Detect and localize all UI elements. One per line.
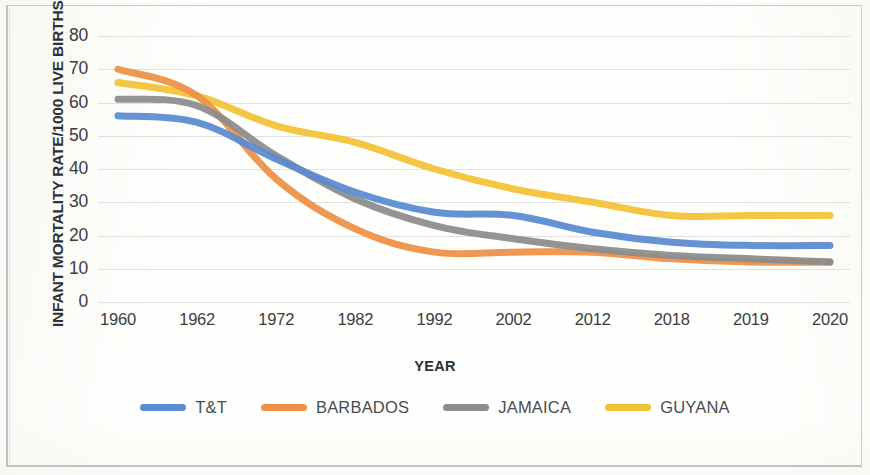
data-series-group [98,36,850,302]
x-axis-tick-label: 1972 [258,310,294,329]
x-axis-tick-label: 1962 [179,310,215,329]
y-axis-tick-label: 0 [42,291,88,312]
legend-swatch-guyana [605,404,651,411]
legend-item-guyana[interactable]: GUYANA [605,398,730,417]
x-axis-title: YEAR [0,358,870,374]
x-axis-tick-label: 1960 [100,310,136,329]
gridline [98,302,850,303]
legend-label: BARBADOS [316,398,409,417]
x-axis-tick-label: 2018 [654,310,690,329]
legend-label: JAMAICA [498,398,571,417]
y-axis-tick-label: 40 [42,158,88,179]
legend-item-tt[interactable]: T&T [140,398,227,417]
x-axis-tick-label: 2012 [575,310,611,329]
series-line-guyana [118,83,830,217]
legend-swatch-barbados [261,404,307,411]
legend-swatch-jamaica [443,404,489,411]
y-axis-tick-label: 20 [42,225,88,246]
x-axis-tick-label: 2019 [733,310,769,329]
legend-item-barbados[interactable]: BARBADOS [261,398,409,417]
legend-item-jamaica[interactable]: JAMAICA [443,398,571,417]
x-axis-tick-label: 1992 [416,310,452,329]
legend-label: GUYANA [660,398,730,417]
y-axis-tick-label: 30 [42,191,88,212]
x-axis-tick-label: 2002 [496,310,532,329]
y-axis-tick-label: 50 [42,125,88,146]
y-axis-tick-label: 80 [42,25,88,46]
plot-area: 80706050403020100 1960196219721982199220… [98,36,850,302]
chart-page: INFANT MORTALITY RATE/1000 LIVE BIRTHS 8… [0,0,870,475]
legend-label: T&T [195,398,227,417]
y-axis-tick-label: 10 [42,258,88,279]
y-axis-tick-label: 70 [42,58,88,79]
chart-legend: T&TBARBADOSJAMAICAGUYANA [0,398,870,417]
y-axis-tick-label: 60 [42,92,88,113]
x-axis-tick-label: 1982 [337,310,373,329]
x-axis-tick-label: 2020 [812,310,848,329]
legend-swatch-tt [140,404,186,411]
